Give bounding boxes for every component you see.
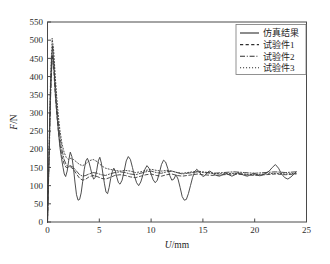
- y-tick-label: 500: [30, 35, 44, 45]
- x-tick-label: 25: [302, 225, 312, 235]
- legend-label-3: 试验件2: [263, 51, 295, 62]
- series-path-2: [48, 55, 297, 222]
- y-tick-label: 250: [30, 126, 44, 136]
- x-axis-title: U/mm: [165, 240, 190, 250]
- legend-label-2: 试验件1: [263, 39, 295, 50]
- legend-label-4: 试验件3: [263, 62, 295, 73]
- y-tick-label: 550: [30, 17, 44, 27]
- y-tick-label: 100: [30, 181, 44, 191]
- y-tick-label: 0: [39, 217, 44, 227]
- line-chart: 0501001502002503003504004505005500510152…: [0, 0, 330, 264]
- x-tick-label: 10: [147, 225, 157, 235]
- x-tick-label: 20: [250, 225, 260, 235]
- legend-label-1: 仿真结果: [263, 27, 299, 38]
- x-tick-label: 5: [97, 225, 102, 235]
- y-tick-label: 200: [30, 144, 44, 154]
- y-tick-label: 450: [30, 54, 44, 64]
- y-tick-label: 400: [30, 72, 44, 82]
- y-tick-label: 300: [30, 108, 44, 118]
- x-tick-label: 0: [45, 225, 50, 235]
- series-path-3: [48, 57, 297, 222]
- chart-container: 0501001502002503003504004505005500510152…: [0, 0, 330, 264]
- y-tick-label: 150: [30, 163, 44, 173]
- y-tick-label: 50: [34, 199, 44, 209]
- y-axis-title: F/N: [9, 114, 19, 130]
- chart-legend: 仿真结果试验件1试验件2试验件3: [236, 25, 306, 75]
- x-tick-label: 15: [198, 225, 208, 235]
- y-tick-label: 350: [30, 90, 44, 100]
